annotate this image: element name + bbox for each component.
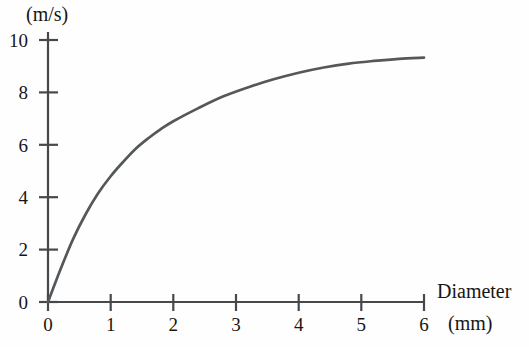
x-tick-label-1: 1 [96, 315, 126, 334]
y-axis-unit-label: (m/s) [26, 4, 68, 24]
x-tick-label-4: 4 [284, 315, 314, 334]
x-tick-label-0: 0 [33, 315, 63, 334]
y-tick-label-10: 10 [0, 31, 28, 50]
x-axis-unit-label: (mm) [448, 313, 492, 333]
y-tick-label-2: 2 [0, 240, 28, 259]
y-tick-label-8: 8 [0, 83, 28, 102]
x-tick-label-3: 3 [221, 315, 251, 334]
y-tick-label-4: 4 [0, 188, 28, 207]
x-axis-title: Diameter [437, 281, 511, 301]
x-tick-label-2: 2 [158, 315, 188, 334]
x-tick-label-6: 6 [409, 315, 439, 334]
chart-figure: (m/s) 10 8 6 4 2 0 0 1 2 3 4 5 6 Diamete… [0, 0, 529, 347]
y-tick-label-0: 0 [0, 293, 28, 312]
velocity-curve [48, 58, 424, 302]
y-tick-label-6: 6 [0, 136, 28, 155]
x-tick-label-5: 5 [346, 315, 376, 334]
